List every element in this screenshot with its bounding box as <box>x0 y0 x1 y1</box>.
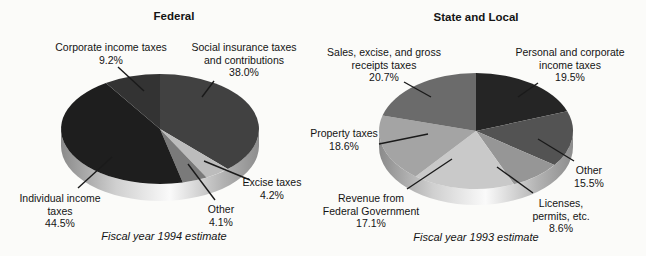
label-line: and contributions <box>191 54 296 67</box>
figure-canvas: Federal Corporate income taxes 9.2% Soci… <box>0 0 646 256</box>
label-line: permits, etc. <box>532 210 589 223</box>
label-individual-income-taxes: Individual income taxes 44.5% <box>19 192 100 230</box>
label-corporate-income-taxes: Corporate income taxes 9.2% <box>55 41 166 66</box>
federal-pie <box>61 67 259 201</box>
label-pct: 9.2% <box>55 54 166 67</box>
label-excise-taxes: Excise taxes 4.2% <box>243 176 302 201</box>
label-social-insurance-taxes: Social insurance taxes and contributions… <box>191 41 296 79</box>
label-state-other: Other 15.5% <box>574 164 604 189</box>
label-line: Excise taxes <box>243 176 302 189</box>
federal-chart-title: Federal <box>154 10 195 22</box>
label-pct: 20.7% <box>327 71 441 84</box>
label-line: Licenses, <box>532 197 589 210</box>
label-federal-other: Other 4.1% <box>208 203 234 228</box>
label-pct: 18.6% <box>310 140 378 153</box>
label-pct: 19.5% <box>515 71 624 84</box>
label-line: Individual income <box>19 192 100 205</box>
federal-chart-caption: Fiscal year 1994 estimate <box>101 230 226 242</box>
state-local-pie <box>379 73 574 205</box>
label-sales-excise-gross-receipts: Sales, excise, and gross receipts taxes … <box>327 46 441 84</box>
label-pct: 8.6% <box>532 222 589 235</box>
label-line: Property taxes <box>310 127 378 140</box>
state-local-chart-caption: Fiscal year 1993 estimate <box>413 231 538 243</box>
label-line: Other <box>208 203 234 216</box>
label-line: Personal and corporate <box>515 46 624 59</box>
label-pct: 4.2% <box>243 189 302 202</box>
label-property-taxes: Property taxes 18.6% <box>310 127 378 152</box>
label-line: Social insurance taxes <box>191 41 296 54</box>
state-local-chart-title: State and Local <box>434 11 519 23</box>
label-pct: 4.1% <box>208 216 234 229</box>
label-line: taxes <box>19 205 100 218</box>
label-line: income taxes <box>515 59 624 72</box>
label-pct: 44.5% <box>19 217 100 230</box>
label-pct: 15.5% <box>574 177 604 190</box>
label-pct: 17.1% <box>323 217 419 230</box>
label-line: Sales, excise, and gross <box>327 46 441 59</box>
label-personal-corporate-income: Personal and corporate income taxes 19.5… <box>515 46 624 84</box>
label-line: receipts taxes <box>327 59 441 72</box>
label-pct: 38.0% <box>191 66 296 79</box>
label-line: Revenue from <box>323 192 419 205</box>
label-line: Federal Government <box>323 205 419 218</box>
label-line: Corporate income taxes <box>55 41 166 54</box>
label-licenses-permits: Licenses, permits, etc. 8.6% <box>532 197 589 235</box>
label-line: Other <box>574 164 604 177</box>
label-revenue-federal-government: Revenue from Federal Government 17.1% <box>323 192 419 230</box>
